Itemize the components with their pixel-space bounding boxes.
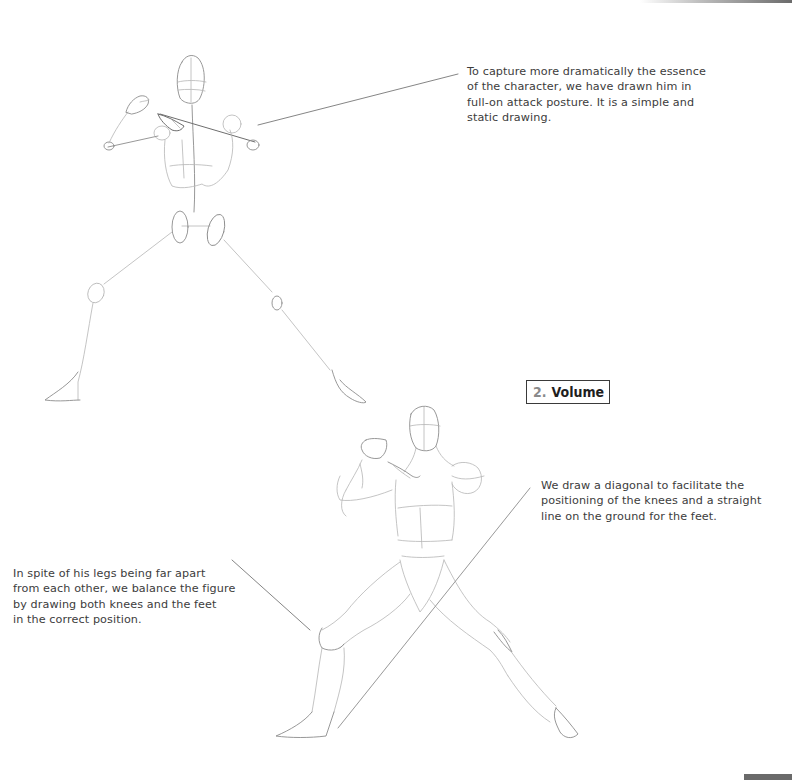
section-title: Volume [552,384,605,400]
skeleton-figure [45,55,366,402]
caption-line: full-on attack posture. It is a simple a… [467,95,706,110]
section-number: 2. [533,384,547,400]
caption-line: line on the ground for the feet. [541,509,761,524]
caption-line: in the correct position. [13,612,235,627]
section-heading: 2. Volume [526,380,610,404]
knee-diagonal-guide-line [338,488,530,728]
caption-line: positioning of the knees and a straight [541,493,761,508]
caption-balance: In spite of his legs being far apart fro… [13,566,235,628]
caption-leader-line [258,74,458,125]
caption-line: In spite of his legs being far apart [13,566,235,581]
caption-skeleton: To capture more dramatically the essence… [467,64,706,126]
caption-line: To capture more dramatically the essence [467,64,706,79]
caption-line: We draw a diagonal to facilitate the [541,478,761,493]
page-corner-tab [744,774,792,780]
caption-line: static drawing. [467,110,706,125]
caption-line: from each other, we balance the figure [13,581,235,596]
caption-line: by drawing both knees and the feet [13,597,235,612]
volume-figure [276,406,578,737]
caption-diagonal: We draw a diagonal to facilitate the pos… [541,478,761,524]
caption-leader-line-balance [232,560,310,630]
caption-line: of the character, we have drawn him in [467,79,706,94]
